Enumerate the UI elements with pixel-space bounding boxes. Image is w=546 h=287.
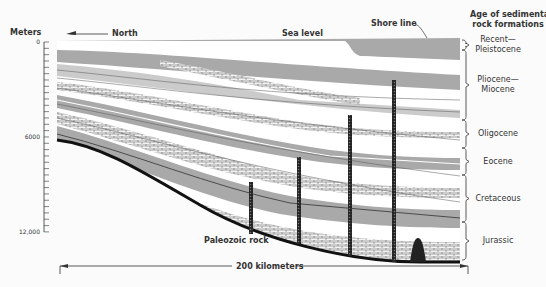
age-brackets	[462, 40, 469, 260]
north-label: North	[112, 29, 138, 38]
age-label: Pliocene—Miocene	[470, 75, 526, 95]
shore-line-label: Shore line	[371, 19, 417, 28]
age-label: Cretaceous	[470, 194, 526, 204]
sea-level-label: Sea level	[282, 29, 323, 38]
age-label: Recent—Pleistocene	[470, 35, 526, 55]
scale-label: 200 kilometers	[236, 262, 304, 271]
oil-well	[348, 115, 352, 256]
age-label: Oligocene	[470, 129, 526, 139]
age-title: Age of sedimentary rock formations	[470, 10, 546, 30]
depth-tick-label: 6000	[0, 133, 40, 140]
depth-tick-label: 0	[0, 38, 40, 45]
oil-well	[297, 157, 301, 244]
paleozoic-label: Paleozoic rock	[204, 236, 269, 245]
age-label: Eocene	[470, 157, 526, 167]
depth-axis-title: Meters	[10, 28, 41, 37]
depth-axis	[44, 42, 49, 232]
age-label: Jurassic	[470, 236, 526, 246]
oil-well	[392, 80, 396, 262]
depth-tick-label: 12,000	[0, 228, 40, 235]
oil-well	[249, 182, 253, 234]
cross-section-diagram	[0, 0, 546, 287]
